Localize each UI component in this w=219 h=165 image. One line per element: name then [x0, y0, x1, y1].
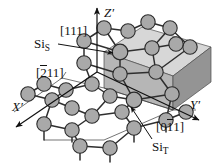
label-direction-011: [011] [156, 120, 184, 133]
label-axis-z: Z′ [104, 6, 114, 19]
atom [73, 139, 87, 153]
atom [169, 37, 183, 51]
atom [127, 121, 141, 135]
axis-x-text: X [12, 99, 20, 114]
atom [21, 87, 35, 101]
atom [163, 21, 177, 35]
si-s-base-text: Si [34, 36, 45, 51]
overbar-1: 1 [167, 120, 174, 133]
si-s-subscript: S [45, 43, 50, 53]
label-si-t: SiT [152, 140, 169, 156]
label-direction-211: [211] [36, 66, 64, 79]
atom [141, 15, 155, 29]
label-axis-y: Y′ [190, 98, 200, 111]
si-t-subscript: T [163, 146, 169, 156]
direction-111-text: [111] [60, 23, 87, 38]
atom [165, 87, 179, 101]
atom-si-t [126, 92, 142, 108]
atom [37, 117, 51, 131]
atom [113, 67, 127, 81]
atom [145, 41, 159, 55]
direction-211-rest: 11] [47, 65, 64, 80]
overbar-2: 2 [40, 66, 47, 79]
atom [45, 93, 59, 107]
atom [77, 56, 91, 70]
atom [65, 101, 79, 115]
axis-y-prime: ′ [197, 97, 200, 112]
axis-z-prime: ′ [111, 5, 114, 20]
label-direction-111: [111] [60, 24, 87, 37]
axis-x-prime: ′ [20, 99, 23, 114]
dangling-bonds [44, 120, 166, 162]
bracket-open-011: [0 [156, 119, 167, 134]
silicon-crystal-figure: [111] Z′ SiS [211] X′ Y′ [011] SiT [0, 0, 219, 165]
atom [183, 40, 197, 54]
direction-011-rest: 1] [173, 119, 184, 134]
crystal-structure-drawing [0, 0, 219, 165]
label-axis-x: X′ [12, 100, 23, 113]
atom [103, 89, 117, 103]
atom [85, 109, 99, 123]
atom [103, 141, 117, 155]
atom-si-s [112, 44, 128, 60]
label-si-s: SiS [34, 37, 50, 53]
atom [149, 65, 163, 79]
atom [65, 123, 79, 137]
atom [97, 21, 111, 35]
atom [121, 24, 135, 38]
si-t-base-text: Si [152, 139, 163, 154]
atom [115, 105, 129, 119]
